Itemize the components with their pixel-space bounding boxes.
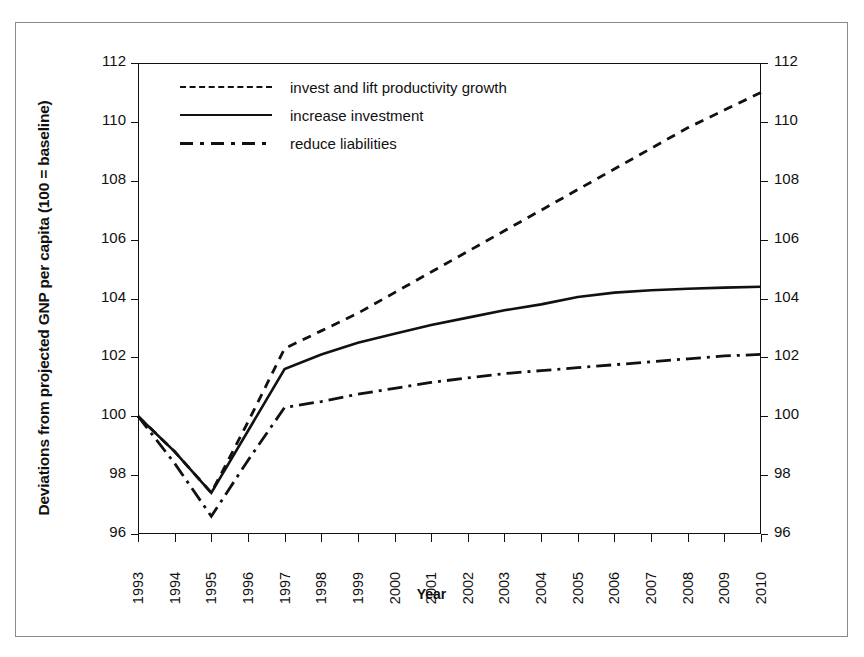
y-tick-mark-right — [761, 181, 768, 182]
legend-item[interactable]: increase investment — [180, 101, 507, 129]
x-tick-mark — [395, 534, 396, 542]
legend-line-solid — [180, 114, 272, 116]
series-line — [138, 354, 761, 516]
chart-legend: invest and lift productivity growthincre… — [180, 73, 507, 157]
plot-area: 9696989810010010210210410410610610810811… — [138, 63, 761, 534]
series-line — [138, 287, 761, 493]
x-tick-mark — [541, 534, 542, 542]
y-tick-label-right: 110 — [774, 111, 818, 128]
x-tick-mark — [504, 534, 505, 542]
y-tick-label-left: 108 — [86, 170, 126, 187]
y-tick-mark-right — [761, 475, 768, 476]
x-tick-mark — [614, 534, 615, 542]
y-tick-label-right: 112 — [774, 52, 818, 69]
legend-swatch-dash-dot — [180, 137, 272, 149]
legend-label: invest and lift productivity growth — [290, 79, 507, 96]
legend-label: increase investment — [290, 107, 423, 124]
y-tick-label-left: 106 — [86, 229, 126, 246]
x-tick-mark — [578, 534, 579, 542]
x-tick-mark — [358, 534, 359, 542]
y-tick-mark-left — [131, 475, 138, 476]
y-tick-mark-right — [761, 63, 768, 64]
y-tick-label-right: 98 — [774, 464, 818, 481]
chart-figure: Deviations from projected GNP per capita… — [15, 22, 848, 637]
y-tick-mark-left — [131, 534, 138, 535]
x-tick-label: 2008 — [680, 565, 696, 611]
y-tick-mark-right — [761, 240, 768, 241]
y-axis-title: Deviations from projected GNP per capita… — [35, 58, 53, 558]
x-tick-label: 2010 — [753, 565, 769, 611]
x-tick-mark — [468, 534, 469, 542]
x-tick-label: 1998 — [313, 565, 329, 611]
x-tick-label: 2007 — [643, 565, 659, 611]
y-tick-label-left: 98 — [86, 464, 126, 481]
x-tick-label: 1993 — [130, 565, 146, 611]
y-tick-label-right: 108 — [774, 170, 818, 187]
y-tick-label-left: 112 — [86, 52, 126, 69]
y-tick-label-left: 104 — [86, 288, 126, 305]
x-tick-label: 2004 — [533, 565, 549, 611]
legend-line-dash-dot — [180, 142, 272, 145]
legend-label: reduce liabilities — [290, 135, 397, 152]
x-tick-label: 1999 — [350, 565, 366, 611]
x-tick-mark — [248, 534, 249, 542]
x-tick-mark — [761, 534, 762, 542]
x-tick-mark — [724, 534, 725, 542]
x-tick-label: 2005 — [570, 565, 586, 611]
y-tick-label-right: 102 — [774, 346, 818, 363]
legend-swatch-dashed — [180, 81, 272, 93]
y-tick-label-left: 102 — [86, 346, 126, 363]
y-tick-mark-left — [131, 240, 138, 241]
x-tick-label: 2001 — [423, 565, 439, 611]
legend-swatch-solid — [180, 109, 272, 121]
y-tick-label-right: 104 — [774, 288, 818, 305]
y-tick-mark-left — [131, 357, 138, 358]
x-tick-mark — [138, 534, 139, 542]
y-tick-label-left: 110 — [86, 111, 126, 128]
x-tick-label: 1996 — [240, 565, 256, 611]
y-tick-mark-right — [761, 534, 768, 535]
y-tick-mark-right — [761, 122, 768, 123]
x-tick-mark — [651, 534, 652, 542]
y-tick-label-right: 106 — [774, 229, 818, 246]
x-tick-mark — [321, 534, 322, 542]
legend-line-dashed — [180, 86, 272, 88]
y-tick-mark-left — [131, 181, 138, 182]
x-tick-mark — [431, 534, 432, 542]
x-tick-label: 2003 — [496, 565, 512, 611]
x-tick-label: 2002 — [460, 565, 476, 611]
legend-item[interactable]: invest and lift productivity growth — [180, 73, 507, 101]
y-tick-mark-right — [761, 416, 768, 417]
x-tick-mark — [211, 534, 212, 542]
x-tick-mark — [285, 534, 286, 542]
y-tick-mark-left — [131, 299, 138, 300]
x-tick-mark — [175, 534, 176, 542]
x-tick-label: 1997 — [277, 565, 293, 611]
y-tick-mark-left — [131, 63, 138, 64]
x-tick-label: 1994 — [167, 565, 183, 611]
x-tick-label: 2006 — [606, 565, 622, 611]
legend-item[interactable]: reduce liabilities — [180, 129, 507, 157]
y-tick-mark-left — [131, 122, 138, 123]
y-tick-label-left: 96 — [86, 523, 126, 540]
y-tick-label-left: 100 — [86, 405, 126, 422]
x-tick-label: 2000 — [387, 565, 403, 611]
x-tick-label: 1995 — [203, 565, 219, 611]
y-tick-label-right: 96 — [774, 523, 818, 540]
y-tick-mark-right — [761, 357, 768, 358]
y-tick-label-right: 100 — [774, 405, 818, 422]
x-tick-mark — [688, 534, 689, 542]
x-tick-label: 2009 — [716, 565, 732, 611]
y-tick-mark-right — [761, 299, 768, 300]
